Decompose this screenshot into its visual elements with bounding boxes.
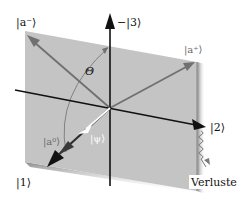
diagram-canvas: |a⁻⟩ −|3⟩ |a⁺⟩ Θ |2⟩ |a⁰⟩ |ψ⟩ |1⟩ Verlus… — [0, 0, 245, 204]
label-axis-2: |2⟩ — [210, 121, 225, 135]
label-axis-3: −|3⟩ — [117, 16, 141, 30]
label-theta: Θ — [85, 65, 94, 78]
label-psi: |ψ⟩ — [90, 133, 105, 145]
label-a-zero: |a⁰⟩ — [43, 136, 60, 148]
label-loss: Verluste — [190, 176, 237, 189]
label-a-minus: |a⁻⟩ — [16, 16, 36, 30]
label-axis-1: |1⟩ — [16, 176, 31, 190]
label-a-plus: |a⁺⟩ — [184, 44, 203, 56]
